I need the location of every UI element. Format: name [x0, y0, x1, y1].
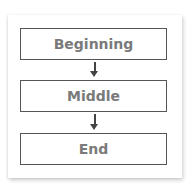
- step-label: Beginning: [54, 36, 134, 52]
- step-label: End: [79, 141, 109, 157]
- step-box-middle: Middle: [20, 80, 167, 112]
- step-box-beginning: Beginning: [20, 28, 167, 60]
- arrow-down-icon: [90, 62, 99, 77]
- arrow-down-icon: [90, 114, 99, 130]
- step-label: Middle: [67, 88, 120, 104]
- step-box-end: End: [20, 133, 167, 165]
